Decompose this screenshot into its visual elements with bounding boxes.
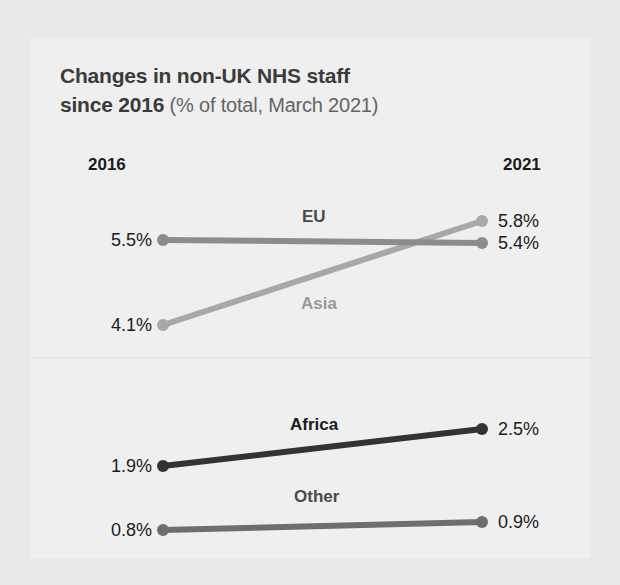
- data-point-other-2016[interactable]: [157, 524, 169, 536]
- column-header-2016: 2016: [88, 155, 126, 175]
- series-label-africa: Africa: [290, 415, 338, 435]
- series-label-asia: Asia: [301, 294, 337, 314]
- series-label-eu: EU: [302, 207, 326, 227]
- data-point-eu-2021[interactable]: [476, 237, 488, 249]
- value-label-other-2021: 0.9%: [498, 512, 539, 533]
- title-strong-part-2: since 2016: [60, 93, 164, 116]
- title-line-1: Changes in non-UK NHS staff: [60, 62, 580, 91]
- lower-chart-panel: Africa Other 1.9% 0.8% 2.5% 0.9%: [0, 395, 620, 560]
- chart-page: Changes in non-UK NHS staff since 2016 (…: [0, 0, 620, 585]
- panel-divider: [30, 357, 590, 358]
- data-point-asia-2016[interactable]: [157, 319, 169, 331]
- title-subtitle: (% of total, March 2021): [164, 94, 378, 116]
- value-label-asia-2016: 4.1%: [62, 315, 152, 336]
- title-strong-part-1: Changes in non-UK NHS staff: [60, 64, 350, 87]
- series-label-other: Other: [294, 487, 339, 507]
- page-title: Changes in non-UK NHS staff since 2016 (…: [60, 62, 580, 120]
- data-point-africa-2021[interactable]: [476, 423, 488, 435]
- data-point-asia-2021[interactable]: [476, 215, 488, 227]
- data-point-eu-2016[interactable]: [157, 234, 169, 246]
- series-line-other[interactable]: [163, 522, 482, 530]
- value-label-eu-2021: 5.4%: [498, 233, 539, 254]
- value-label-asia-2021: 5.8%: [498, 211, 539, 232]
- value-label-eu-2016: 5.5%: [62, 230, 152, 251]
- data-point-africa-2016[interactable]: [157, 460, 169, 472]
- upper-chart-panel: EU Asia 5.5% 4.1% 5.8% 5.4%: [0, 190, 620, 355]
- value-label-africa-2016: 1.9%: [62, 456, 152, 477]
- data-point-other-2021[interactable]: [476, 516, 488, 528]
- value-label-other-2016: 0.8%: [62, 520, 152, 541]
- series-line-eu[interactable]: [163, 240, 482, 243]
- column-header-2021: 2021: [503, 155, 541, 175]
- title-line-2: since 2016 (% of total, March 2021): [60, 91, 580, 120]
- value-label-africa-2021: 2.5%: [498, 419, 539, 440]
